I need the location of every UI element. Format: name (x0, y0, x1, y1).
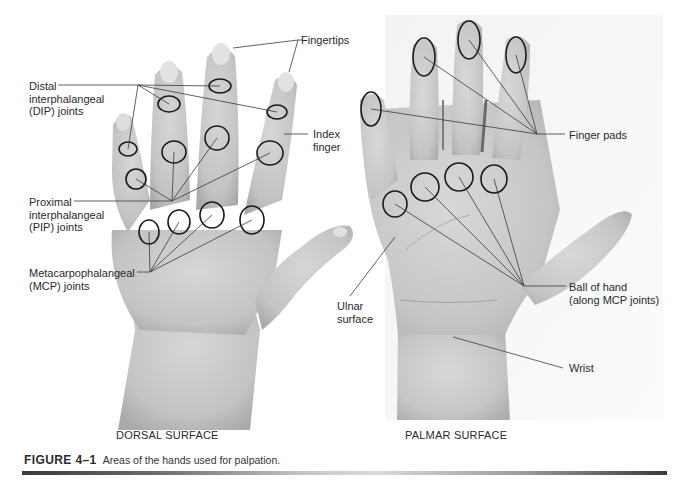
caption-divider (22, 471, 667, 475)
figure-number: FIGURE 4–1 (24, 453, 97, 467)
label-mcp-joints: Metacarpophalangeal (MCP) joints (29, 267, 135, 292)
label-ball-of-hand: Ball of hand (along MCP joints) (569, 281, 659, 306)
dorsal-hand (112, 43, 353, 430)
figure-palpation-areas: Fingertips Distal interphalangeal (DIP) … (0, 0, 687, 484)
figure-caption: FIGURE 4–1Areas of the hands used for pa… (24, 450, 280, 468)
dorsal-surface-title: DORSAL SURFACE (116, 429, 219, 441)
label-finger-pads: Finger pads (569, 129, 627, 142)
label-dip-joints: Distal interphalangeal (DIP) joints (29, 80, 104, 118)
label-pip-joints: Proximal interphalangeal (PIP) joints (29, 196, 104, 234)
label-ulnar-surface: Ulnar surface (337, 300, 373, 325)
palmar-surface-title: PALMAR SURFACE (405, 429, 507, 441)
figure-caption-text: Areas of the hands used for palpation. (103, 454, 280, 466)
label-fingertips: Fingertips (301, 34, 349, 47)
label-wrist: Wrist (569, 362, 594, 375)
label-index-finger: Index finger (313, 128, 341, 153)
